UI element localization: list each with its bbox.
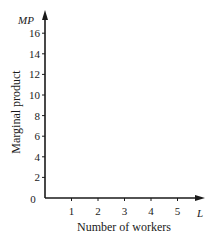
x-axis-arrow-icon [195, 195, 205, 201]
y-tick-label: 6 [35, 130, 41, 142]
x-axis-variable-label: L [196, 207, 203, 219]
x-axis-title: Number of workers [77, 220, 171, 234]
x-axis-ticks: 12345 [69, 198, 181, 217]
y-axis-title: Marginal product [9, 70, 23, 154]
y-tick-label: 16 [29, 27, 41, 39]
y-axis-variable-label: MP [17, 14, 34, 26]
x-tick-label: 4 [148, 205, 154, 217]
y-tick-label: 12 [29, 68, 40, 80]
axes [42, 10, 205, 201]
x-tick-label: 2 [95, 205, 101, 217]
marginal-product-chart: 246810121416 12345 MP L 0 Number of work… [0, 0, 212, 241]
y-axis-arrow-icon [42, 10, 48, 20]
origin-label: 0 [30, 193, 36, 205]
y-tick-label: 8 [35, 110, 41, 122]
y-tick-label: 2 [35, 171, 41, 183]
y-tick-label: 14 [29, 48, 41, 60]
y-tick-label: 4 [35, 151, 41, 163]
y-axis-ticks: 246810121416 [29, 27, 45, 183]
x-tick-label: 1 [69, 205, 75, 217]
y-tick-label: 10 [29, 89, 41, 101]
x-tick-label: 5 [175, 205, 181, 217]
x-tick-label: 3 [122, 205, 128, 217]
